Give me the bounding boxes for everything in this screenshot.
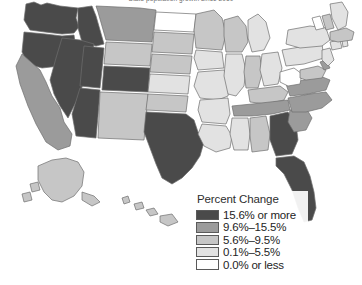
state-shape[interactable]: [224, 16, 248, 52]
state-mt[interactable]: [96, 6, 156, 42]
state-shape[interactable]: [152, 32, 194, 54]
state-shape[interactable]: [150, 54, 192, 74]
state-ks[interactable]: [148, 74, 190, 94]
state-al[interactable]: [250, 116, 270, 152]
state-shape[interactable]: [198, 124, 232, 152]
state-co[interactable]: [102, 66, 150, 92]
state-nd[interactable]: [154, 12, 196, 32]
state-shape[interactable]: [154, 12, 196, 32]
state-shape[interactable]: [224, 54, 246, 96]
legend-row: 0.0% or less: [196, 259, 308, 271]
legend-title: Percent Change: [197, 193, 308, 206]
state-shape[interactable]: [160, 214, 178, 226]
state-md[interactable]: [300, 66, 326, 80]
state-shape[interactable]: [250, 116, 270, 152]
state-ia[interactable]: [194, 50, 224, 70]
state-shape[interactable]: [30, 182, 40, 192]
state-ut[interactable]: [80, 46, 104, 88]
state-tx[interactable]: [144, 112, 204, 184]
state-shape[interactable]: [122, 196, 130, 204]
legend-label: 0.0% or less: [223, 259, 284, 271]
state-ar[interactable]: [198, 98, 230, 124]
state-shape[interactable]: [96, 6, 156, 42]
legend-swatch: [196, 247, 219, 258]
state-wa[interactable]: [24, 2, 79, 34]
state-wi[interactable]: [224, 16, 248, 52]
legend-row: 0.1%–5.5%: [196, 246, 308, 258]
state-ny[interactable]: [286, 26, 330, 48]
state-ma[interactable]: [330, 28, 354, 42]
state-shape[interactable]: [194, 10, 226, 50]
legend-items: 15.6% or more9.6%–15.5%5.6%–9.5%0.1%–5.5…: [196, 209, 308, 271]
state-shape[interactable]: [300, 66, 326, 80]
state-shape[interactable]: [104, 42, 152, 66]
state-la[interactable]: [198, 124, 232, 152]
state-mn[interactable]: [194, 10, 226, 50]
legend-row: 5.6%–9.5%: [196, 234, 308, 246]
state-shape[interactable]: [144, 112, 204, 184]
state-shape[interactable]: [260, 52, 282, 86]
state-shape[interactable]: [194, 50, 224, 70]
state-shape[interactable]: [146, 208, 158, 216]
state-shape[interactable]: [230, 118, 250, 150]
state-nm[interactable]: [98, 92, 148, 140]
state-mi[interactable]: [248, 14, 270, 52]
legend-swatch: [196, 235, 219, 246]
legend-label: 0.1%–5.5%: [223, 246, 280, 258]
legend-row: 9.6%–15.5%: [196, 221, 308, 233]
state-ak[interactable]: [22, 158, 100, 206]
state-sd[interactable]: [152, 32, 194, 54]
state-shape[interactable]: [146, 94, 188, 112]
state-shape[interactable]: [286, 26, 330, 48]
state-ne[interactable]: [150, 54, 192, 74]
state-shape[interactable]: [98, 92, 148, 140]
state-shape[interactable]: [80, 46, 104, 88]
state-oh[interactable]: [260, 52, 282, 86]
state-shape[interactable]: [198, 98, 230, 124]
state-shape[interactable]: [22, 192, 32, 202]
state-shape[interactable]: [82, 192, 100, 206]
state-shape[interactable]: [248, 14, 270, 52]
state-il[interactable]: [224, 54, 246, 96]
state-ok[interactable]: [146, 94, 188, 112]
legend-swatch: [196, 222, 219, 233]
legend-swatch: [196, 259, 219, 270]
state-shape[interactable]: [330, 28, 354, 42]
state-ms[interactable]: [230, 118, 250, 150]
legend-label: 9.6%–15.5%: [223, 221, 286, 233]
legend-swatch: [196, 210, 219, 221]
state-shape[interactable]: [38, 158, 84, 202]
state-wv[interactable]: [280, 68, 302, 86]
legend-label: 5.6%–9.5%: [223, 234, 280, 246]
state-shape[interactable]: [134, 202, 144, 210]
legend-label: 15.6% or more: [223, 209, 296, 221]
state-shape[interactable]: [148, 74, 190, 94]
legend: Percent Change 15.6% or more9.6%–15.5%5.…: [193, 191, 308, 271]
state-shape[interactable]: [244, 56, 262, 88]
legend-row: 15.6% or more: [196, 209, 308, 221]
state-hi[interactable]: [122, 196, 178, 226]
state-shape[interactable]: [24, 2, 79, 34]
state-shape[interactable]: [102, 66, 150, 92]
state-in[interactable]: [244, 56, 262, 88]
choropleth-map-figure: State population growth since 2010 Perce…: [0, 0, 362, 285]
state-wy[interactable]: [104, 42, 152, 66]
state-shape[interactable]: [280, 68, 302, 86]
